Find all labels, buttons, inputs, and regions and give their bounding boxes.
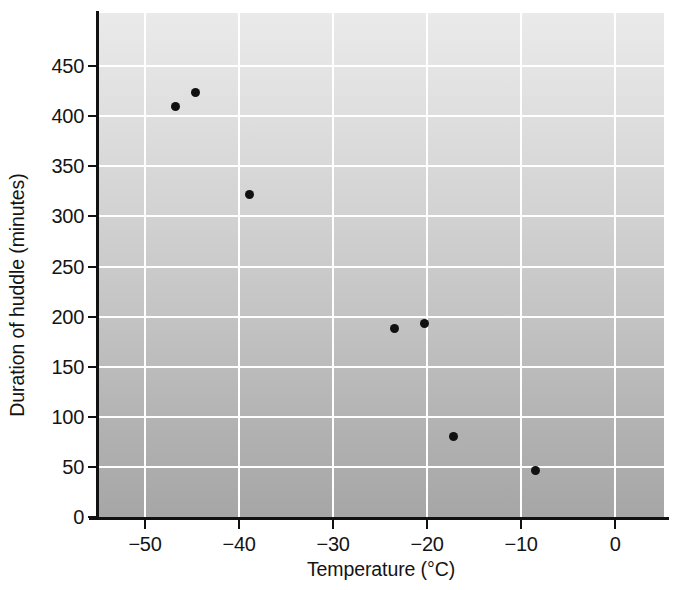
y-axis-tick (88, 466, 97, 468)
x-axis-tick (332, 519, 334, 529)
data-point (171, 102, 180, 111)
x-axis-title: Temperature (°C) (98, 558, 664, 581)
x-axis-tick (238, 519, 240, 529)
y-axis-tick (88, 165, 97, 167)
data-point (449, 432, 458, 441)
gridline-horizontal (98, 266, 664, 268)
y-axis-tick (88, 65, 97, 67)
gridline-vertical (238, 13, 240, 517)
y-axis-tick (88, 115, 97, 117)
data-point (420, 319, 429, 328)
gridline-horizontal (98, 215, 664, 217)
x-axis-tick (614, 519, 616, 529)
gridline-vertical (520, 13, 522, 517)
gridline-horizontal (98, 65, 664, 67)
data-point (390, 324, 399, 333)
y-axis-tick (88, 516, 97, 518)
data-point (191, 88, 200, 97)
x-axis-tick-label: −30 (298, 533, 368, 555)
gridline-horizontal (98, 366, 664, 368)
gridline-vertical (426, 13, 428, 517)
y-axis-title: Duration of huddle (minutes) (0, 0, 34, 590)
data-point (531, 466, 540, 475)
x-axis-tick (426, 519, 428, 529)
y-axis-tick (88, 266, 97, 268)
y-axis-tick (88, 366, 97, 368)
x-axis-line (89, 517, 669, 520)
gridline-horizontal (98, 165, 664, 167)
gridline-vertical (144, 13, 146, 517)
plot-area (98, 13, 664, 517)
x-axis-tick (144, 519, 146, 529)
x-axis-tick (520, 519, 522, 529)
y-axis-tick (88, 215, 97, 217)
scatter-chart-figure: 050100150200250300350400450 −50−40−30−20… (0, 0, 673, 590)
x-axis-tick-label: −10 (486, 533, 556, 555)
gridline-horizontal (98, 466, 664, 468)
gridline-horizontal (98, 316, 664, 318)
gridline-horizontal (98, 416, 664, 418)
gridline-horizontal (98, 115, 664, 117)
gridline-vertical (614, 13, 616, 517)
gridline-vertical (332, 13, 334, 517)
x-axis-tick-label: −40 (204, 533, 274, 555)
y-axis-tick (88, 416, 97, 418)
x-axis-tick-label: −20 (392, 533, 462, 555)
x-axis-tick-label: −50 (110, 533, 180, 555)
data-point (245, 190, 254, 199)
y-axis-tick (88, 316, 97, 318)
x-axis-tick-label: 0 (580, 533, 650, 555)
